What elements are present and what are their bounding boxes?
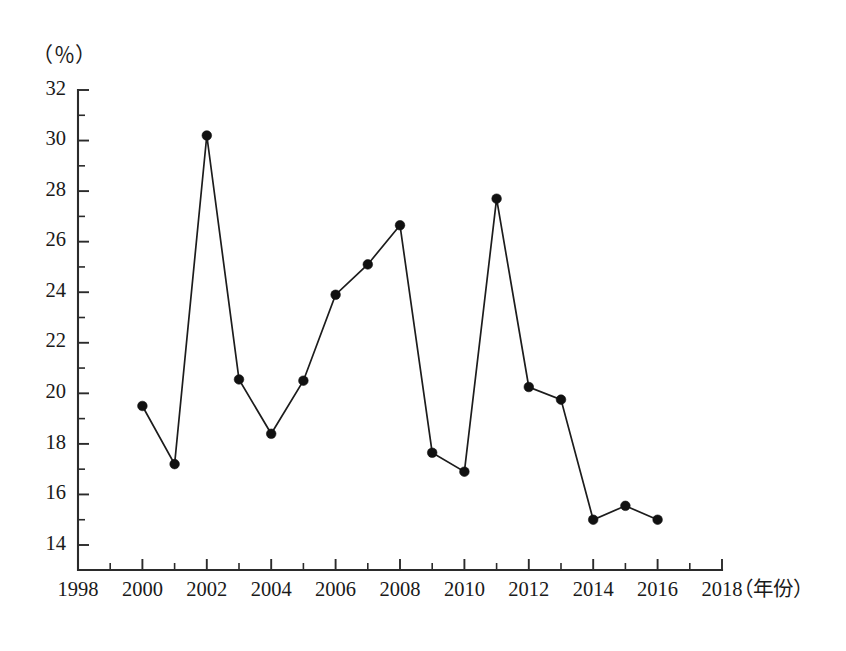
x-tick-label-2000: 2000 (122, 578, 163, 600)
y-tick-label-26: 26 (46, 228, 67, 250)
data-point-2016 (653, 515, 663, 525)
data-point-2010 (460, 467, 470, 477)
y-tick-label-14: 14 (46, 532, 67, 554)
y-tick-label-28: 28 (46, 178, 67, 200)
data-series-line (142, 136, 657, 520)
data-point-2003 (234, 375, 244, 385)
x-axis-ticks (78, 559, 722, 570)
data-point-2008 (395, 220, 405, 230)
y-tick-label-24: 24 (46, 279, 67, 301)
data-point-2014 (588, 515, 598, 525)
x-tick-label-2012: 2012 (508, 578, 549, 600)
axis-lines (78, 90, 722, 570)
x-tick-label-2010: 2010 (444, 578, 485, 600)
x-tick-label-2016: 2016 (637, 578, 678, 600)
line-chart: 14161820222426283032 1998200020022004200… (0, 0, 846, 651)
y-axis-unit-label: （％） (32, 43, 97, 67)
data-point-2009 (427, 448, 437, 458)
data-point-2012 (524, 382, 534, 392)
x-tick-label-2014: 2014 (573, 578, 614, 600)
data-point-2002 (202, 131, 212, 141)
x-tick-label-1998: 1998 (58, 578, 99, 600)
data-point-markers (138, 131, 663, 525)
data-point-2013 (556, 395, 566, 405)
data-point-2011 (492, 194, 502, 204)
data-point-2005 (299, 376, 309, 386)
x-axis-tick-labels: 1998200020022004200620082010201220142016… (58, 578, 743, 600)
data-point-2004 (266, 429, 276, 439)
y-tick-label-32: 32 (46, 77, 67, 99)
y-tick-label-18: 18 (46, 431, 67, 453)
axes-group (78, 90, 722, 570)
data-point-2006 (331, 290, 341, 300)
data-point-2001 (170, 459, 180, 469)
data-point-2000 (138, 401, 148, 411)
x-axis-title: （年份） (733, 578, 813, 600)
y-tick-label-16: 16 (46, 481, 67, 503)
y-tick-label-30: 30 (46, 127, 67, 149)
y-tick-label-20: 20 (46, 380, 67, 402)
x-tick-label-2006: 2006 (315, 578, 356, 600)
data-point-2015 (621, 501, 631, 511)
data-point-2007 (363, 260, 373, 270)
y-tick-label-22: 22 (46, 329, 67, 351)
x-tick-label-2004: 2004 (251, 578, 292, 600)
chart-canvas: 14161820222426283032 1998200020022004200… (0, 0, 846, 651)
y-axis-ticks (78, 90, 89, 545)
x-tick-label-2002: 2002 (186, 578, 227, 600)
y-axis-tick-labels: 14161820222426283032 (46, 77, 67, 554)
x-tick-label-2008: 2008 (380, 578, 421, 600)
